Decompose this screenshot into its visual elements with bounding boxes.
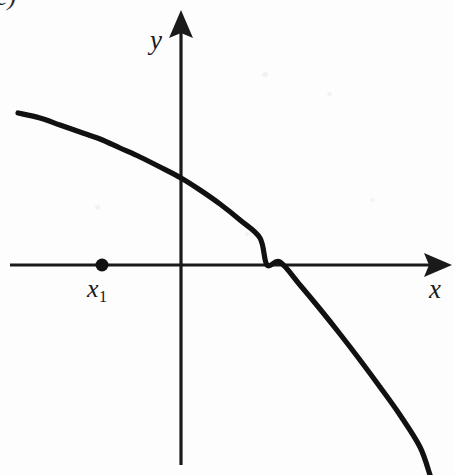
function-curve (18, 113, 430, 475)
x-axis (10, 253, 452, 277)
y-axis (169, 10, 193, 465)
graph-figure: c) y x x1 (0, 0, 454, 475)
y-axis-label: y (150, 27, 162, 54)
marked-point-label-subscript: 1 (99, 288, 107, 305)
marked-point-dot (96, 259, 109, 272)
panel-label: c) (0, 0, 16, 10)
marked-point-label: x1 (87, 276, 107, 305)
graph-canvas (0, 0, 454, 475)
marked-point-label-base: x (87, 274, 99, 303)
x-axis-label: x (429, 276, 441, 303)
